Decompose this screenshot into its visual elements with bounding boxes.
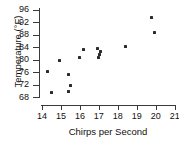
y-tick-mark xyxy=(33,10,39,11)
x-axis-title: Chirps per Second xyxy=(41,126,175,137)
y-tick-label: 80 xyxy=(10,55,29,64)
x-tick-mark xyxy=(80,105,81,110)
data-point xyxy=(67,73,70,76)
y-tick-label: 72 xyxy=(10,80,29,89)
x-tick-mark xyxy=(99,105,100,110)
x-tick-label: 14 xyxy=(32,112,52,121)
x-tick-label: 15 xyxy=(51,112,71,121)
data-point xyxy=(69,84,72,87)
y-tick-mark xyxy=(33,60,39,61)
data-point xyxy=(97,56,100,59)
x-tick-mark xyxy=(61,105,62,110)
y-tick-mark xyxy=(33,35,39,36)
y-tick-mark xyxy=(33,85,39,86)
data-point xyxy=(153,31,156,34)
y-tick-label: 68 xyxy=(10,93,29,102)
x-tick-mark xyxy=(156,105,157,110)
x-tick-label: 21 xyxy=(165,112,179,121)
data-point xyxy=(67,90,70,93)
y-tick-mark xyxy=(33,97,39,98)
x-tick-label: 19 xyxy=(127,112,147,121)
data-point xyxy=(58,59,61,62)
y-tick-mark xyxy=(33,47,39,48)
data-point xyxy=(50,91,53,94)
y-tick-mark xyxy=(33,22,39,23)
x-tick-mark xyxy=(137,105,138,110)
data-point xyxy=(46,70,49,73)
y-tick-label: 88 xyxy=(10,30,29,39)
x-tick-label: 20 xyxy=(146,112,166,121)
y-tick-label: 84 xyxy=(10,43,29,52)
data-point xyxy=(124,45,127,48)
y-tick-label: 92 xyxy=(10,18,29,27)
x-tick-label: 18 xyxy=(108,112,128,121)
y-tick-mark xyxy=(33,72,39,73)
x-tick-label: 16 xyxy=(70,112,90,121)
y-tick-label: 96 xyxy=(10,5,29,14)
x-tick-mark xyxy=(42,105,43,110)
data-point xyxy=(78,56,81,59)
data-point xyxy=(150,16,153,19)
data-point xyxy=(82,48,85,51)
y-tick-label: 76 xyxy=(10,68,29,77)
x-tick-mark xyxy=(118,105,119,110)
scatter-plot: Temperature (°F) 6872768084889296 141516… xyxy=(0,0,179,142)
x-tick-mark xyxy=(175,105,176,110)
y-axis-line xyxy=(39,8,40,98)
x-tick-label: 17 xyxy=(89,112,109,121)
